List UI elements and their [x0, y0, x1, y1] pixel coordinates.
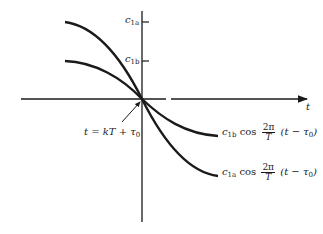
curve-1a-label: c1a cos 2πT (t − τ0): [222, 163, 317, 182]
diagram-canvas: [0, 0, 323, 234]
tick-label-c1a: c1a: [125, 14, 139, 27]
annotation-label: t = kT + τ0: [84, 126, 140, 139]
x-axis-label: t: [306, 101, 310, 112]
fraction: 2πT: [262, 123, 276, 142]
annotation-arrow: [122, 102, 140, 122]
fraction: 2πT: [261, 163, 275, 182]
tick-label-c1b: c1b: [125, 53, 140, 66]
curve-1b-label: c1b cos 2πT (t − τ0): [222, 123, 317, 142]
